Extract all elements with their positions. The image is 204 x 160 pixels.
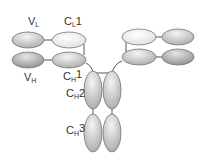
right-cl1-domain xyxy=(122,29,156,45)
vh-label: VH xyxy=(24,71,36,84)
left-vl-domain xyxy=(12,32,44,48)
ch3-label: CH3 xyxy=(66,122,85,137)
right-ch1-domain xyxy=(122,49,156,65)
vl-label: VL xyxy=(28,15,39,28)
left-cl1-domain xyxy=(52,32,86,48)
left-ch2-domain xyxy=(84,71,102,109)
right-vh-domain xyxy=(162,49,194,65)
connectors xyxy=(44,37,162,114)
left-vh-domain xyxy=(12,52,44,68)
right-ch2-domain xyxy=(103,71,121,109)
ch1-label: CH1 xyxy=(63,68,82,83)
left-ch1-domain xyxy=(52,52,86,68)
ch2-label: CH2 xyxy=(66,87,85,100)
right-ch3-domain xyxy=(103,114,121,152)
antibody-diagram: VL CL1 VH CH1 CH2 CH3 xyxy=(0,0,204,160)
right-vl-domain xyxy=(162,29,194,45)
left-ch3-domain xyxy=(84,114,102,152)
cl1-label: CL1 xyxy=(64,15,82,28)
